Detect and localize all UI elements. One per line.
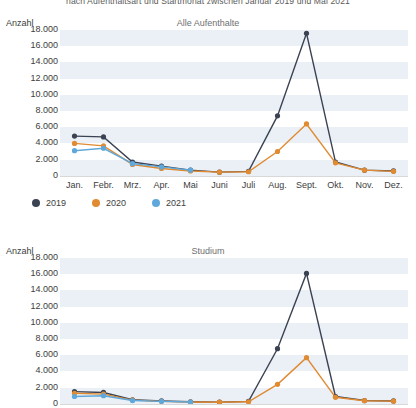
- chart-title: Alle Aufenthalte: [0, 18, 416, 28]
- y-tick-label: 8.000: [2, 333, 58, 343]
- legend-label: 2021: [166, 198, 186, 208]
- legend-swatch-icon: [32, 199, 40, 207]
- data-point-2021: [188, 168, 193, 173]
- x-tick-label: Nov.: [356, 180, 374, 190]
- data-point-2019: [304, 271, 309, 276]
- x-axis-line: [60, 404, 408, 405]
- data-point-2021: [72, 148, 77, 153]
- data-point-2019: [275, 346, 280, 351]
- y-tick-label: 6.000: [2, 349, 58, 359]
- legend-label: 2019: [46, 198, 66, 208]
- data-point-2019: [304, 31, 309, 36]
- x-tick-label: Dez.: [384, 180, 403, 190]
- data-point-2020: [333, 395, 338, 400]
- plot-area: [60, 30, 408, 176]
- data-point-2019: [101, 134, 106, 139]
- legend-item-2020[interactable]: 2020: [92, 198, 126, 208]
- data-point-2021: [130, 398, 135, 403]
- y-tick-label: 10.000: [2, 317, 58, 327]
- data-point-2020: [304, 355, 309, 360]
- y-tick-label: 16.000: [2, 268, 58, 278]
- data-point-2020: [304, 121, 309, 126]
- legend-label: 2020: [106, 198, 126, 208]
- data-point-2021: [159, 164, 164, 169]
- y-tick-label: 6.000: [2, 121, 58, 131]
- y-tick-label: 16.000: [2, 40, 58, 50]
- data-point-2020: [275, 382, 280, 387]
- chart-legend: 201920202021: [32, 198, 186, 208]
- data-point-2021: [101, 393, 106, 398]
- legend-swatch-icon: [152, 199, 160, 207]
- chart-title: Studium: [0, 246, 416, 256]
- x-tick-label: Juli: [242, 180, 256, 190]
- data-point-2020: [362, 398, 367, 403]
- y-tick-label: 4.000: [2, 365, 58, 375]
- series-line-2019: [75, 33, 394, 172]
- data-point-2020: [246, 169, 251, 174]
- series-layer: [60, 258, 408, 404]
- data-point-2020: [72, 141, 77, 146]
- y-tick-label: 18.000: [2, 24, 58, 34]
- data-point-2020: [391, 169, 396, 174]
- legend-item-2019[interactable]: 2019: [32, 198, 66, 208]
- data-point-2020: [333, 160, 338, 165]
- x-tick-label: Juni: [211, 180, 228, 190]
- y-tick-label: 14.000: [2, 56, 58, 66]
- series-line-2020: [75, 358, 394, 403]
- y-tick-label: 8.000: [2, 105, 58, 115]
- data-point-2021: [130, 161, 135, 166]
- plot-area: [60, 258, 408, 404]
- y-tick-label: 0: [2, 398, 58, 408]
- x-axis-line: [60, 176, 408, 177]
- x-tick-label: Mrz.: [124, 180, 142, 190]
- data-point-2019: [72, 134, 77, 139]
- y-tick-label: 18.000: [2, 252, 58, 262]
- y-tick-label: 10.000: [2, 89, 58, 99]
- y-tick-label: 2.000: [2, 382, 58, 392]
- legend-swatch-icon: [92, 199, 100, 207]
- data-point-2020: [275, 149, 280, 154]
- y-tick-label: 12.000: [2, 301, 58, 311]
- legend-item-2021[interactable]: 2021: [152, 198, 186, 208]
- x-tick-label: Febr.: [93, 180, 114, 190]
- data-point-2019: [275, 113, 280, 118]
- x-tick-label: Apr.: [153, 180, 169, 190]
- data-point-2021: [72, 394, 77, 399]
- series-line-2020: [75, 124, 394, 172]
- series-layer: [60, 30, 408, 176]
- y-tick-label: 0: [2, 170, 58, 180]
- series-line-2019: [75, 273, 394, 402]
- y-tick-label: 2.000: [2, 154, 58, 164]
- data-point-2021: [101, 146, 106, 151]
- page-subtitle: nach Aufenthaltsart und Startmonat zwisc…: [0, 0, 416, 6]
- data-point-2020: [362, 168, 367, 173]
- x-tick-label: Okt.: [327, 180, 344, 190]
- y-tick-label: 4.000: [2, 137, 58, 147]
- x-tick-label: Mai: [183, 180, 198, 190]
- x-tick-label: Aug.: [268, 180, 287, 190]
- y-tick-label: 12.000: [2, 73, 58, 83]
- x-tick-label: Sept.: [296, 180, 317, 190]
- data-point-2020: [217, 170, 222, 175]
- x-tick-label: Jan.: [66, 180, 83, 190]
- x-tick-labels: Jan.Febr.Mrz.Apr.MaiJuniJuliAug.Sept.Okt…: [60, 180, 408, 194]
- y-tick-label: 14.000: [2, 284, 58, 294]
